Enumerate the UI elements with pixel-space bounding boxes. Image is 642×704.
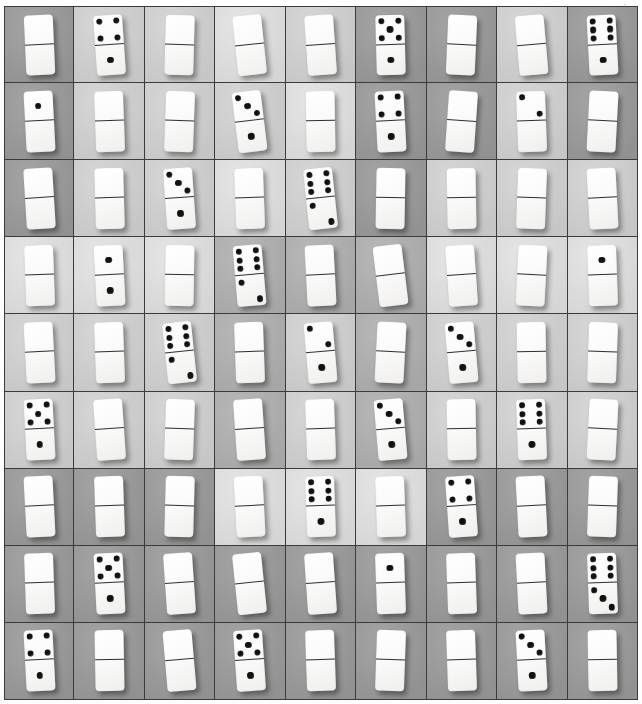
- domino-half-top: [233, 244, 265, 277]
- domino-half-bottom: [306, 44, 337, 76]
- domino-tile-0-0: [304, 14, 337, 76]
- domino-tile-0-0: [304, 552, 337, 615]
- grid-cell-r4-c8: [497, 237, 567, 314]
- grid-cell-r9-c6: [356, 623, 426, 700]
- domino-half-bottom: [25, 44, 55, 75]
- domino-half-top: [304, 244, 335, 276]
- domino-tile-0-0: [232, 552, 267, 616]
- pip: [113, 17, 120, 24]
- grid-cell-r9-c1: [4, 623, 74, 700]
- domino-half-top: [305, 630, 335, 661]
- domino-half-bottom: [447, 660, 477, 691]
- pip: [27, 403, 33, 410]
- domino-tile-0-0: [164, 476, 195, 538]
- pip: [254, 264, 261, 271]
- domino-half-bottom: [306, 197, 338, 230]
- domino-half-top: [446, 553, 476, 584]
- grid-cell-r6-c9: [568, 392, 638, 469]
- pip: [114, 34, 121, 41]
- pip: [105, 565, 111, 572]
- pip: [590, 557, 596, 563]
- pip: [378, 94, 384, 101]
- domino-half-bottom: [376, 506, 406, 537]
- domino-half-top: [232, 13, 264, 46]
- grid-cell-r7-c8: [497, 469, 567, 546]
- pip: [257, 295, 264, 302]
- grid-cell-r3-c9: [568, 160, 638, 237]
- grid-cell-r1-c5: [286, 6, 356, 83]
- domino-half-top: [232, 552, 264, 585]
- pip: [606, 17, 612, 23]
- domino-half-bottom: [447, 274, 478, 306]
- domino-tile-0-0: [24, 244, 55, 306]
- pip: [387, 565, 393, 571]
- grid-cell-r9-c8: [497, 623, 567, 700]
- domino-tile-6-2: [233, 244, 267, 307]
- pip: [536, 410, 542, 416]
- domino-tile-0-0: [24, 553, 55, 615]
- domino-half-bottom: [235, 506, 266, 538]
- domino-half-bottom: [95, 506, 125, 537]
- domino-half-top: [447, 14, 477, 45]
- domino-tile-2-1: [303, 321, 337, 384]
- domino-half-bottom: [235, 352, 265, 383]
- grid-cell-r2-c4: [215, 83, 285, 160]
- pip: [177, 210, 184, 217]
- pip: [27, 420, 33, 427]
- domino-half-top: [305, 399, 335, 430]
- domino-tile-6-2: [162, 321, 197, 385]
- domino-tile-0-0: [446, 630, 477, 692]
- domino-tile-0-0: [445, 90, 478, 153]
- pip: [107, 596, 114, 603]
- pip: [528, 642, 534, 649]
- pip: [537, 650, 543, 657]
- grid-cell-r8-c3: [145, 546, 215, 623]
- pip: [113, 556, 119, 563]
- pip: [529, 441, 535, 448]
- domino-half-top: [516, 630, 547, 662]
- pip: [175, 179, 182, 186]
- domino-tile-4-1: [375, 90, 407, 152]
- domino-half-top: [588, 90, 619, 122]
- pip: [377, 403, 384, 410]
- grid-cell-r3-c6: [356, 160, 426, 237]
- domino-half-bottom: [236, 119, 269, 153]
- pip: [600, 596, 606, 603]
- domino-half-top: [587, 553, 617, 584]
- domino-half-top: [234, 167, 264, 198]
- pip: [590, 574, 596, 580]
- domino-half-bottom: [25, 197, 56, 229]
- domino-tile-0-0: [446, 553, 477, 615]
- domino-half-bottom: [235, 198, 265, 229]
- domino-half-bottom: [445, 44, 475, 75]
- pip: [318, 364, 325, 371]
- pip: [325, 496, 331, 502]
- domino-tile-3-1: [374, 398, 408, 461]
- pip: [388, 56, 394, 63]
- domino-tile-0-0: [375, 321, 407, 383]
- grid-cell-r1-c2: [74, 6, 144, 83]
- domino-half-top: [23, 167, 54, 199]
- grid-cell-r7-c1: [4, 469, 74, 546]
- domino-half-bottom: [25, 352, 55, 384]
- pip: [307, 326, 314, 333]
- domino-tile-1-0: [23, 90, 55, 152]
- domino-half-top: [232, 89, 265, 123]
- domino-half-bottom: [587, 506, 617, 537]
- domino-half-bottom: [376, 274, 409, 308]
- grid-cell-r4-c5: [286, 237, 356, 314]
- domino-half-bottom: [306, 429, 336, 460]
- domino-tile-0-0: [586, 398, 618, 460]
- domino-half-bottom: [445, 120, 476, 152]
- pip: [248, 673, 255, 680]
- domino-tile-1-0: [375, 553, 406, 615]
- pip: [248, 133, 255, 140]
- domino-half-top: [516, 399, 546, 430]
- domino-half-top: [305, 90, 335, 121]
- grid-cell-r7-c9: [568, 469, 638, 546]
- domino-half-top: [233, 398, 264, 430]
- domino-tile-0-0: [517, 322, 547, 383]
- grid-cell-r2-c9: [568, 83, 638, 160]
- domino-tile-6-3: [587, 553, 618, 615]
- domino-half-top: [444, 321, 476, 354]
